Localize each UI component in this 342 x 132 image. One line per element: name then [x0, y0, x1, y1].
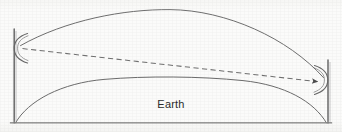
refracted-ray-arc: [21, 10, 324, 78]
earth-label: Earth: [0, 98, 342, 111]
right-tower-mast: [328, 60, 330, 123]
diagram-canvas: [0, 0, 342, 132]
earth-curvature-diagram: Earth: [0, 0, 342, 132]
